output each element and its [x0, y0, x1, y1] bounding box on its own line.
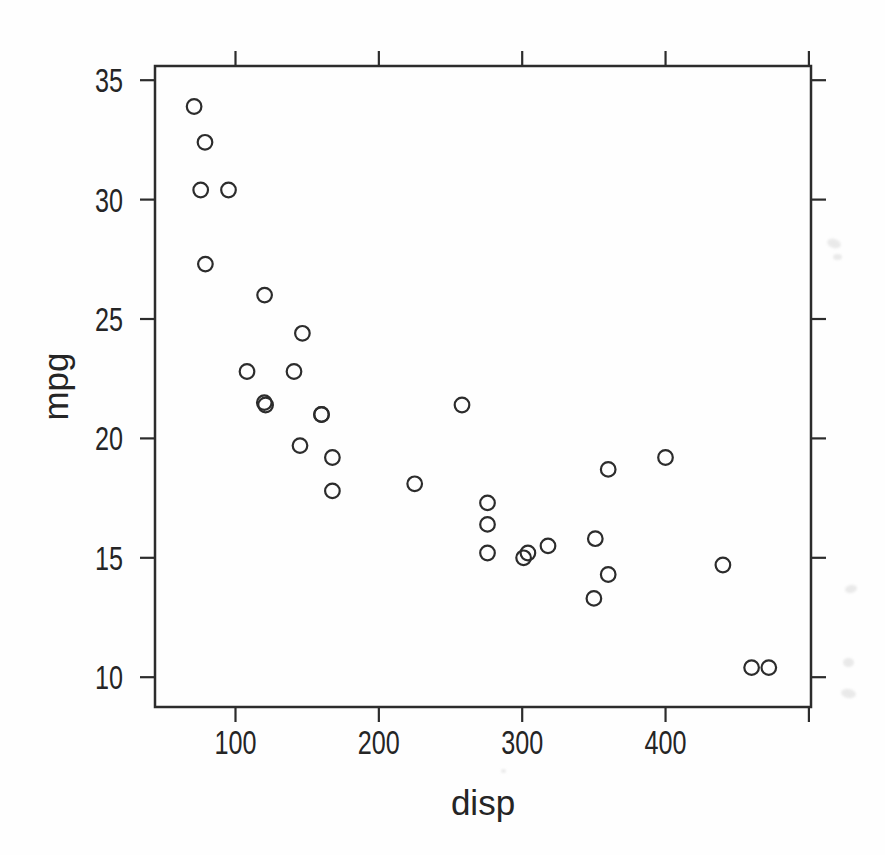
scatter-point: [455, 398, 470, 413]
y-tick-label: 20: [95, 419, 123, 457]
scatter-point: [287, 364, 302, 379]
scatter-point: [480, 496, 495, 511]
scatter-point: [480, 517, 495, 532]
scatter-point: [187, 99, 202, 114]
y-tick-label: 25: [95, 300, 123, 338]
scatter-point: [587, 591, 602, 606]
scatter-point: [314, 407, 329, 422]
axis-tick-labels: 100200300400101520253035: [95, 61, 687, 761]
scatter-point: [221, 183, 236, 198]
scatter-point: [601, 567, 616, 582]
scatter-point: [762, 660, 777, 675]
scatter-point: [240, 364, 255, 379]
scatter-point: [293, 438, 308, 453]
scatter-point: [257, 288, 272, 303]
scatter-point: [588, 531, 603, 546]
scatter-point: [407, 477, 422, 492]
y-tick-label: 35: [95, 61, 123, 99]
plot-canvas: 100200300400101520253035 disp mpg: [0, 0, 885, 855]
x-tick-label: 300: [501, 723, 543, 761]
y-tick-label: 15: [95, 539, 123, 577]
scatter-point: [601, 462, 616, 477]
x-tick-label: 100: [215, 723, 257, 761]
scatter-point: [193, 183, 208, 198]
scatter-point: [716, 558, 731, 573]
scatter-point: [198, 135, 213, 150]
scatter-point: [541, 539, 556, 554]
scatter-point: [480, 546, 495, 561]
scatter-point: [658, 450, 673, 465]
scan-smudge: [501, 769, 506, 773]
scatter-point: [325, 484, 340, 499]
scan-smudge: [843, 658, 854, 667]
y-tick-label: 10: [95, 658, 123, 696]
plot-box-border: [155, 66, 811, 707]
x-axis-title: disp: [451, 783, 515, 822]
y-axis-title: mpg: [36, 352, 75, 420]
x-tick-label: 400: [645, 723, 687, 761]
x-tick-label: 200: [358, 723, 400, 761]
axis-ticks: [140, 51, 826, 722]
scatter-point: [325, 450, 340, 465]
scatter-point: [295, 326, 310, 341]
data-points: [187, 99, 776, 675]
scan-smudge: [833, 254, 842, 260]
y-tick-label: 30: [95, 181, 123, 219]
scatter-point: [744, 660, 759, 675]
scatter-plot-figure: 100200300400101520253035 disp mpg: [0, 0, 885, 855]
scatter-point: [198, 257, 213, 272]
